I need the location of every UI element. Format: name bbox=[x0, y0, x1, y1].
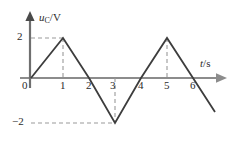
x-axis-label: t/s bbox=[200, 58, 210, 69]
x-tick-label-2: 2 bbox=[86, 80, 92, 91]
x-tick-label-3: 3 bbox=[110, 80, 116, 91]
y-axis-arrow-icon bbox=[25, 11, 34, 21]
x-tick-label-4: 4 bbox=[138, 80, 144, 91]
waveform-figure: uC/V t/s 2 −2 0 1 2 3 4 5 6 bbox=[0, 0, 236, 153]
x-tick-label-5: 5 bbox=[164, 80, 170, 91]
guide-lines bbox=[31, 38, 167, 123]
y-axis-unit: V bbox=[53, 11, 61, 23]
chart-canvas bbox=[0, 0, 236, 153]
y-axis-label: uC/V bbox=[39, 12, 61, 25]
y-tick-label-minus2: −2 bbox=[12, 116, 24, 127]
waveform-uc bbox=[31, 38, 215, 123]
x-axis-unit: s bbox=[206, 57, 210, 69]
x-tick-label-1: 1 bbox=[60, 80, 66, 91]
x-tick-label-6: 6 bbox=[190, 80, 196, 91]
x-axis-arrow-icon bbox=[216, 73, 227, 83]
x-tick-label-0: 0 bbox=[22, 80, 28, 91]
y-tick-label-2: 2 bbox=[17, 31, 23, 42]
